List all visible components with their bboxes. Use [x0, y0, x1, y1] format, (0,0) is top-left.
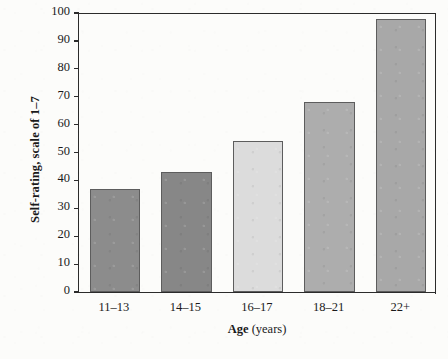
y-axis-tick-label: 40 — [36, 171, 70, 186]
bar-texture — [377, 20, 425, 291]
y-axis-tick-label: 70 — [36, 88, 70, 103]
x-axis-title: Age (years) — [78, 322, 436, 337]
x-axis-tick-label: 18–21 — [293, 300, 365, 315]
bar — [304, 102, 354, 292]
y-axis-title: Self-rating, scale of 1–7 — [28, 40, 43, 280]
plot-area: 0102030405060708090100 — [78, 14, 436, 293]
x-axis-title-unit: (years) — [252, 322, 287, 336]
y-axis-tick-label: 60 — [36, 116, 70, 131]
bar-texture — [234, 142, 282, 291]
y-axis-tick-mark — [74, 208, 79, 209]
y-axis-tick-label: 80 — [36, 60, 70, 75]
x-axis-tick-label: 14–15 — [150, 300, 222, 315]
y-axis-tick-label: 50 — [36, 144, 70, 159]
y-axis-tick-mark — [74, 180, 79, 181]
bar — [90, 189, 140, 292]
x-axis-tick-label: 11–13 — [78, 300, 150, 315]
bar-texture — [162, 173, 210, 291]
bar — [376, 19, 426, 292]
y-axis-tick-mark — [74, 12, 79, 13]
bar-texture — [91, 190, 139, 291]
bar-chart-figure: Self-rating, scale of 1–7 01020304050607… — [0, 0, 448, 359]
y-axis-tick-mark — [74, 96, 79, 97]
y-axis-tick-label: 20 — [36, 227, 70, 242]
y-axis-tick-label: 0 — [36, 283, 70, 298]
bar — [233, 141, 283, 292]
y-axis-tick-mark — [74, 124, 79, 125]
y-axis-tick-mark — [74, 264, 79, 265]
y-axis-tick-mark — [74, 291, 79, 292]
y-axis-tick-label: 100 — [36, 4, 70, 19]
y-axis-tick-label: 30 — [36, 199, 70, 214]
y-axis-tick-mark — [74, 68, 79, 69]
bar — [161, 172, 211, 292]
y-axis-tick-mark — [74, 152, 79, 153]
y-axis-tick-mark — [74, 236, 79, 237]
x-axis-title-main: Age — [228, 322, 249, 336]
y-axis-tick-label: 10 — [36, 255, 70, 270]
bar-texture — [305, 103, 353, 291]
x-axis-tick-label: 16–17 — [221, 300, 293, 315]
x-axis-tick-label: 22+ — [364, 300, 436, 315]
y-axis-tick-mark — [74, 40, 79, 41]
y-axis-tick-label: 90 — [36, 32, 70, 47]
